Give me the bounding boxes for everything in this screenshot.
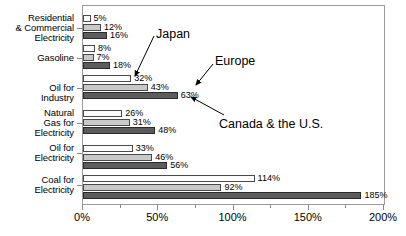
bar-0-5 [83, 175, 255, 182]
bar-value-label-1-3: 31% [133, 118, 151, 127]
category-label-2-line-1: Industry [0, 93, 74, 103]
bar-0-1 [83, 45, 95, 52]
x-tick-minor-3 [345, 205, 346, 208]
category-tick-4 [77, 153, 82, 154]
x-tick-major-2 [233, 205, 234, 210]
bar-2-1 [83, 62, 110, 69]
x-tick-major-1 [157, 205, 158, 210]
bar-value-label-2-4: 56% [170, 161, 188, 170]
category-label-1: Gasoline [0, 53, 74, 63]
bar-1-0 [83, 24, 101, 31]
bar-0-3 [83, 110, 122, 117]
bar-value-label-2-2: 63% [181, 91, 199, 100]
category-label-0-line-2: Electricity [0, 33, 74, 43]
annotation-canada-us: Canada & the U.S. [219, 117, 323, 131]
bar-0-4 [83, 145, 133, 152]
bar-chart: Residential & Commercial Electricity Gas… [0, 0, 406, 236]
category-label-3-line-2: Electricity [0, 128, 74, 138]
category-label-5-line-1: Electricity [0, 185, 74, 195]
bar-0-0 [83, 15, 91, 22]
bar-value-label-1-2: 43% [151, 83, 169, 92]
category-axis: Residential & Commercial Electricity Gas… [0, 5, 78, 205]
x-axis-label-4: 200% [369, 211, 397, 224]
category-label-1-line-0: Gasoline [0, 53, 74, 63]
category-tick-2 [77, 88, 82, 89]
category-label-4-line-1: Electricity [0, 153, 74, 163]
bar-value-label-2-3: 48% [158, 126, 176, 135]
bar-value-label-0-5: 114% [258, 174, 280, 183]
x-tick-major-3 [308, 205, 309, 210]
x-tick-minor-2 [270, 205, 271, 208]
bar-1-5 [83, 184, 221, 191]
category-tick-3 [77, 123, 82, 124]
x-axis-label-2: 100% [218, 211, 246, 224]
bar-1-1 [83, 54, 94, 61]
x-axis-label-0: 0% [74, 211, 90, 224]
bar-value-label-0-2: 32% [134, 74, 152, 83]
annotation-europe: Europe [215, 54, 255, 68]
bar-2-0 [83, 32, 107, 39]
x-tick-major-4 [383, 205, 384, 210]
category-label-2: Oil for Industry [0, 83, 74, 103]
x-axis-labels: 0%50%100%150%200% [0, 211, 406, 227]
bar-2-2 [83, 92, 178, 99]
category-tick-1 [77, 58, 82, 59]
bar-0-2 [83, 75, 131, 82]
x-tick-major-0 [82, 205, 83, 210]
bar-1-4 [83, 154, 152, 161]
bar-value-label-1-5: 92% [224, 183, 242, 192]
category-label-4: Oil for Electricity [0, 143, 74, 163]
bar-value-label-2-5: 185% [364, 191, 387, 200]
bar-2-4 [83, 162, 167, 169]
bar-value-label-2-1: 18% [113, 61, 131, 70]
bar-value-label-0-4: 33% [136, 144, 154, 153]
bars-layer: 5%12%16%8%7%18%32%43%63%26%31%48%33%46%5… [83, 6, 384, 204]
bar-1-3 [83, 119, 130, 126]
annotation-japan: Japan [156, 27, 190, 41]
x-axis-label-3: 150% [294, 211, 322, 224]
bar-1-2 [83, 84, 148, 91]
bar-2-3 [83, 127, 155, 134]
category-tick-0 [77, 28, 82, 29]
x-tick-minor-0 [120, 205, 121, 208]
bar-value-label-2-0: 16% [110, 31, 128, 40]
bar-2-5 [83, 192, 361, 199]
category-label-5: Coal for Electricity [0, 175, 74, 195]
x-axis-label-1: 50% [146, 211, 168, 224]
category-label-0: Residential & Commercial Electricity [0, 13, 74, 42]
bar-value-label-1-1: 7% [97, 53, 110, 62]
x-tick-minor-1 [195, 205, 196, 208]
category-tick-5 [77, 185, 82, 186]
category-label-3: Natural Gas for Electricity [0, 108, 74, 137]
